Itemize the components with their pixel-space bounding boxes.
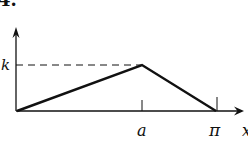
k-label: k xyxy=(1,56,10,74)
tick-label-pi: π xyxy=(208,120,221,140)
x-axis-label: x xyxy=(242,121,248,140)
triangle-function-diagram: 4. k a π x xyxy=(0,0,248,141)
diagram-canvas: 4. k a π x xyxy=(0,0,248,141)
function-graph xyxy=(17,65,216,111)
tick-label-a: a xyxy=(137,121,147,140)
figure-number: 4. xyxy=(0,0,17,10)
